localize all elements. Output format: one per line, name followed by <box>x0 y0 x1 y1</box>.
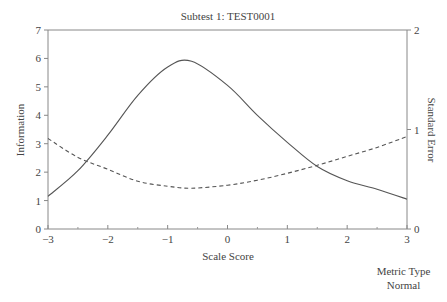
chart-title: Subtest 1: TEST0001 <box>181 10 276 22</box>
information-curve <box>48 60 407 199</box>
y2-axis-ticks: 012 <box>407 24 420 235</box>
y-tick-label: 5 <box>36 81 42 93</box>
y2-axis-label: Standard Error <box>426 97 438 162</box>
y-tick-label: 6 <box>36 52 42 64</box>
y-tick-label: 3 <box>36 138 42 150</box>
x-tick-label: 1 <box>285 233 291 245</box>
y-tick-label: 2 <box>36 166 42 178</box>
x-axis-label: Scale Score <box>202 250 254 262</box>
test-information-chart: Subtest 1: TEST0001 −3−2−10123 01234567 … <box>0 0 447 302</box>
x-tick-label: 3 <box>404 233 410 245</box>
y-axis-label: Information <box>14 103 26 156</box>
y-tick-label: 4 <box>36 109 42 121</box>
x-tick-label: −3 <box>42 233 54 245</box>
x-tick-label: 2 <box>344 233 350 245</box>
x-tick-label: −1 <box>162 233 174 245</box>
metric-type-value: Normal <box>360 278 447 292</box>
standard-error-curve <box>48 137 407 189</box>
y-tick-label: 1 <box>36 195 42 207</box>
y-tick-label: 0 <box>36 223 42 235</box>
x-tick-label: 0 <box>225 233 231 245</box>
x-axis-ticks: −3−2−10123 <box>42 225 410 245</box>
metric-type-note: Metric Type Normal <box>360 264 447 292</box>
plot-frame <box>48 30 407 229</box>
x-tick-label: −2 <box>102 233 114 245</box>
metric-type-label: Metric Type <box>360 264 447 278</box>
y-axis-ticks: 01234567 <box>36 24 49 235</box>
y2-tick-label: 1 <box>414 124 420 136</box>
y2-tick-label: 0 <box>414 223 420 235</box>
y2-tick-label: 2 <box>414 24 420 36</box>
y-tick-label: 7 <box>36 24 42 36</box>
